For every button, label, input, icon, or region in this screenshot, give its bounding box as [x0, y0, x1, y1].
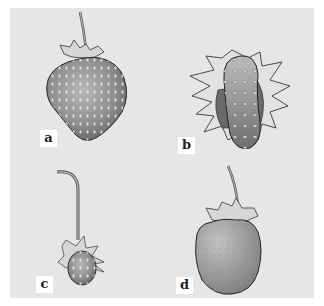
strawberry-b — [190, 50, 290, 149]
label-c: c — [36, 276, 53, 293]
strawberry-d — [196, 166, 261, 294]
strawberry-illustrations — [0, 0, 324, 306]
strawberry-c — [57, 172, 104, 285]
strawberry-a — [47, 12, 127, 140]
label-d: d — [176, 277, 193, 294]
label-a: a — [40, 130, 57, 147]
label-b: b — [178, 137, 195, 154]
